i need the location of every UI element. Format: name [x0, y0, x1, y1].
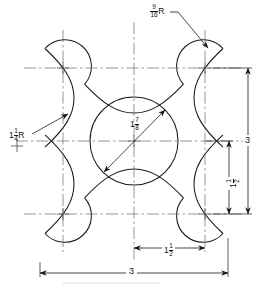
fillet-radius-suffix: R [18, 130, 24, 140]
label-corner-radius: 916R [150, 4, 164, 18]
hole-diameter-denominator: 8 [135, 125, 140, 132]
corner-radius-fraction: 916 [150, 4, 158, 18]
dimension-label-right-inner: 112 [226, 177, 240, 190]
leader-corner-radius [170, 12, 208, 48]
bottom-inner-fraction: 12 [169, 243, 174, 257]
label-fillet-radius: 114R [9, 128, 25, 142]
corner-radius-suffix: R [158, 6, 164, 16]
leader-fillet-radius [32, 114, 68, 134]
dimension-label-bottom-overall: 3 [126, 267, 137, 276]
dimension-label-bottom-inner: 112 [162, 243, 175, 257]
right-inner-whole: 1 [228, 183, 238, 188]
label-hole-diameter: 178 [130, 117, 139, 131]
dimension-label-right-overall: 3 [243, 135, 252, 146]
technical-drawing-canvas [0, 0, 267, 289]
right-inner-denominator: 2 [234, 179, 241, 184]
corner-radius-denominator: 16 [150, 12, 158, 19]
bottom-inner-denominator: 2 [169, 251, 174, 258]
hole-diameter-fraction: 78 [135, 117, 140, 131]
right-inner-fraction: 12 [226, 179, 240, 184]
